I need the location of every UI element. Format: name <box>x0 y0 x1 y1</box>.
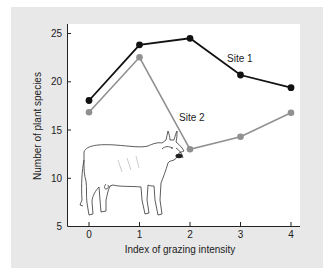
series-label-site1: Site 1 <box>227 53 253 64</box>
y-axis-label: Number of plant species <box>32 72 43 180</box>
line-chart: 25 20 15 10 5 0 1 2 3 4 Index of grazing… <box>0 0 328 276</box>
x-ticks <box>89 222 291 227</box>
x-tick-label: 0 <box>86 229 92 240</box>
y-tick-label: 25 <box>51 28 63 39</box>
y-tick-label: 20 <box>51 76 63 87</box>
x-axis-label: Index of grazing intensity <box>125 244 236 255</box>
series-label-site2: Site 2 <box>179 112 205 123</box>
y-tick-label: 5 <box>56 221 62 232</box>
x-tick-label: 1 <box>137 229 143 240</box>
x-tick-label: 2 <box>187 229 193 240</box>
series-line-site2 <box>89 57 291 149</box>
cow-illustration <box>80 131 184 215</box>
x-tick-label: 3 <box>238 229 244 240</box>
x-tick-label: 4 <box>288 229 294 240</box>
series-line-site1 <box>89 38 291 100</box>
y-tick-label: 15 <box>51 125 63 136</box>
y-tick-label: 10 <box>51 173 63 184</box>
